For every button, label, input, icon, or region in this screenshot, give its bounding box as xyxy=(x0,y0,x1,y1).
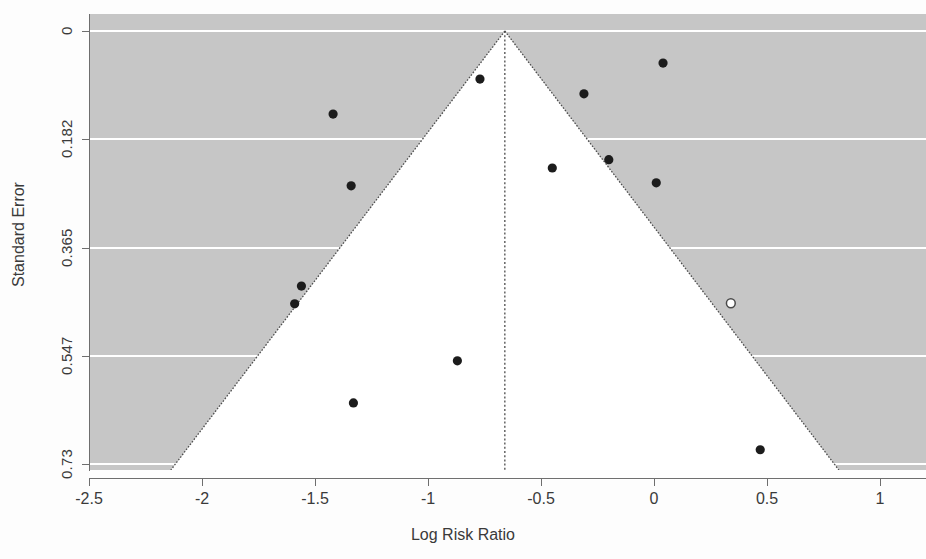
x-tick-label: -2.5 xyxy=(75,490,103,508)
x-tick-mark xyxy=(202,478,203,486)
data-point[interactable] xyxy=(658,58,667,67)
x-tick-mark xyxy=(315,478,316,486)
data-point[interactable] xyxy=(604,155,613,164)
x-tick-label: -0.5 xyxy=(527,490,555,508)
y-axis-line xyxy=(89,14,90,471)
data-point[interactable] xyxy=(349,398,358,407)
data-point[interactable] xyxy=(756,445,765,454)
y-tick-label: 0.182 xyxy=(58,110,75,168)
data-point[interactable] xyxy=(453,356,462,365)
data-point[interactable] xyxy=(548,163,557,172)
y-tick-mark xyxy=(82,248,89,249)
imputed-data-point[interactable] xyxy=(726,299,735,308)
x-tick-mark xyxy=(880,478,881,486)
funnel-plot-svg xyxy=(89,14,926,470)
x-tick-label: 1 xyxy=(876,490,885,508)
y-tick-label: 0.73 xyxy=(58,440,75,488)
data-point[interactable] xyxy=(347,181,356,190)
funnel-plot-figure: 0 0.182 0.365 0.547 0.73 -2.5 -2 -1.5 -1… xyxy=(0,0,926,559)
x-tick-mark xyxy=(767,478,768,486)
y-tick-label: 0.365 xyxy=(58,219,75,277)
x-axis-title: Log Risk Ratio xyxy=(0,526,926,544)
x-tick-label: -2 xyxy=(195,490,209,508)
x-tick-label: 0 xyxy=(650,490,659,508)
x-axis-line xyxy=(89,478,926,479)
y-tick-mark xyxy=(82,464,89,465)
x-tick-mark xyxy=(428,478,429,486)
y-tick-mark xyxy=(82,139,89,140)
data-point[interactable] xyxy=(297,281,306,290)
data-point[interactable] xyxy=(652,178,661,187)
x-tick-label: 0.5 xyxy=(756,490,778,508)
data-point[interactable] xyxy=(579,89,588,98)
x-tick-mark xyxy=(541,478,542,486)
data-point[interactable] xyxy=(328,109,337,118)
x-tick-label: -1.5 xyxy=(301,490,329,508)
y-tick-mark xyxy=(82,356,89,357)
data-point[interactable] xyxy=(475,74,484,83)
y-tick-mark xyxy=(82,31,89,32)
plot-area xyxy=(89,14,926,470)
y-axis-title: Standard Error xyxy=(8,0,30,470)
y-tick-label: 0.547 xyxy=(58,327,75,385)
x-tick-mark xyxy=(89,478,90,486)
data-point[interactable] xyxy=(290,299,299,308)
x-tick-mark xyxy=(654,478,655,486)
x-tick-label: -1 xyxy=(421,490,435,508)
y-tick-label: 0 xyxy=(58,20,75,42)
